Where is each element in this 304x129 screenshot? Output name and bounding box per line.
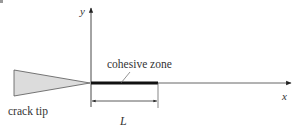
crack-wedge: [14, 70, 90, 96]
cohesive-zone-leader: [121, 72, 130, 83]
cohesive-zone-diagram: y x cohesive zone L crack tip: [0, 0, 304, 129]
x-axis-label: x: [281, 90, 287, 102]
length-label: L: [119, 114, 127, 128]
corner-mark: [0, 0, 3, 3]
crack-tip-label: crack tip: [8, 105, 48, 118]
cohesive-zone-label: cohesive zone: [107, 58, 172, 70]
y-axis-label: y: [79, 5, 85, 17]
